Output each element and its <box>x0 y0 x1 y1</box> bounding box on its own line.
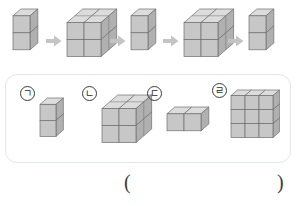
answer-choices-panel: ㄱ ㄴ ㄷ ㄹ <box>5 74 291 163</box>
option-label-giyeok: ㄱ <box>20 86 35 101</box>
answer-right-paren: ) <box>277 168 284 196</box>
option-cube-figure <box>101 94 154 145</box>
right-arrow-icon <box>228 34 244 48</box>
option-label-nieun: ㄴ <box>82 86 97 101</box>
answer-blank[interactable]: ( ) <box>0 168 298 206</box>
worksheet-page: ㄱ ㄴ ㄷ ㄹ ( ) <box>0 0 298 206</box>
option-cube-figure <box>39 97 65 138</box>
right-arrow-icon <box>163 34 179 48</box>
cropped-header-text <box>4 0 124 7</box>
right-arrow-icon <box>110 34 126 48</box>
answer-left-paren: ( <box>124 168 131 196</box>
option-label-rieul: ㄹ <box>212 83 227 98</box>
option-cube-figure <box>230 89 281 140</box>
cube-figure <box>248 8 276 52</box>
option-cube-figure <box>166 106 211 133</box>
cube-figure <box>12 8 40 52</box>
cube-figure <box>130 8 158 52</box>
sequence-figure-5 <box>248 8 298 66</box>
right-arrow-icon <box>46 34 62 48</box>
pattern-sequence <box>0 8 298 66</box>
option-label-digeut: ㄷ <box>147 86 162 101</box>
